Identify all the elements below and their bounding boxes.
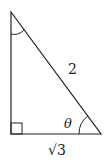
theta-angle-arc	[79, 116, 88, 134]
right-triangle-diagram: 2 θ √3	[0, 0, 108, 164]
right-angle-mark	[11, 123, 22, 134]
triangle	[11, 12, 101, 134]
hypotenuse-label: 2	[68, 61, 77, 77]
top-angle-arc	[11, 30, 24, 35]
base-label: √3	[48, 142, 66, 158]
theta-label: θ	[64, 116, 72, 131]
